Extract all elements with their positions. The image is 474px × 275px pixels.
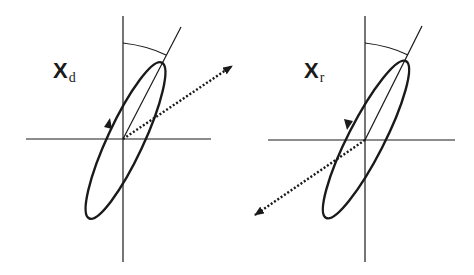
dotted-arrow [255,140,365,215]
dotted-arrow [123,66,232,139]
polarization-ellipse [73,55,178,226]
panel-left [26,16,232,262]
label-main: X [304,58,319,83]
label-main: X [53,58,68,83]
rotation-arrow-icon [104,118,112,129]
angle-arc [365,43,408,55]
label-sub: r [320,70,325,85]
label-xd: Xd [53,58,76,84]
panel-right [255,16,455,262]
angle-arc [123,43,166,55]
label-xr: Xr [304,58,324,84]
label-sub: d [69,70,76,85]
diagram-canvas [0,0,474,275]
